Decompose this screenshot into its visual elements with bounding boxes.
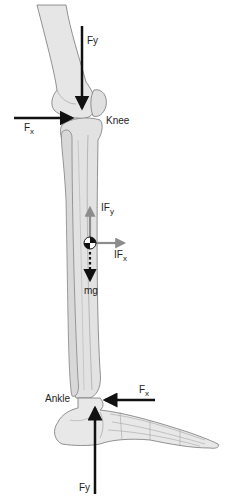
patella-bone — [91, 90, 107, 117]
ankle-fx-label: Fx — [139, 385, 149, 398]
inertial-fy-label: IFy — [101, 203, 114, 216]
ankle-fy-label: Fy — [79, 483, 90, 493]
knee-label: Knee — [106, 116, 129, 126]
free-body-diagram: Fy Knee Fx IFy IFx mg Ankle Fx Fy — [0, 0, 233, 503]
knee-fx-label: Fx — [24, 123, 34, 136]
knee-fy-label: Fy — [87, 36, 98, 46]
femur-bone — [37, 5, 95, 119]
foot-bones — [55, 398, 219, 448]
center-of-mass-marker — [84, 237, 96, 249]
ankle-label: Ankle — [45, 394, 70, 404]
weight-label: mg — [84, 286, 98, 296]
inertial-fx-label: IFx — [114, 250, 127, 263]
